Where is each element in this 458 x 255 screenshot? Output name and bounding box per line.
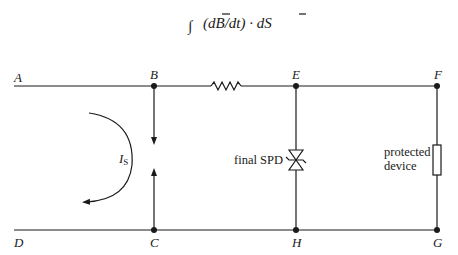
node-label-f: F (433, 67, 443, 82)
node-g-dot (434, 227, 440, 233)
flux-equation: ∫ (dB/dt) · dS (187, 14, 306, 35)
resistor (211, 82, 241, 90)
node-label-h: H (291, 235, 302, 250)
node-label-d: D (13, 235, 24, 250)
device-label-line1: protected (384, 145, 431, 159)
device-label-line2: device (384, 159, 417, 173)
node-h-dot (293, 227, 299, 233)
current-label: IS (118, 151, 128, 167)
spd-label: final SPD (234, 153, 283, 167)
integral-sign: ∫ (187, 18, 194, 35)
protected-device-symbol (433, 145, 441, 175)
spd-symbol (286, 150, 306, 170)
node-label-g: G (433, 235, 443, 250)
circuit-diagram: ∫ (dB/dt) · dS A B E F D C H (0, 0, 458, 255)
node-b-dot (151, 83, 157, 89)
node-label-c: C (150, 235, 159, 250)
node-e-dot (293, 83, 299, 89)
node-c-dot (151, 227, 157, 233)
node-label-e: E (291, 67, 300, 82)
node-label-a: A (13, 70, 22, 85)
node-f-dot (434, 83, 440, 89)
node-label-b: B (150, 67, 158, 82)
equation-text: (dB/dt) · dS (203, 15, 272, 32)
